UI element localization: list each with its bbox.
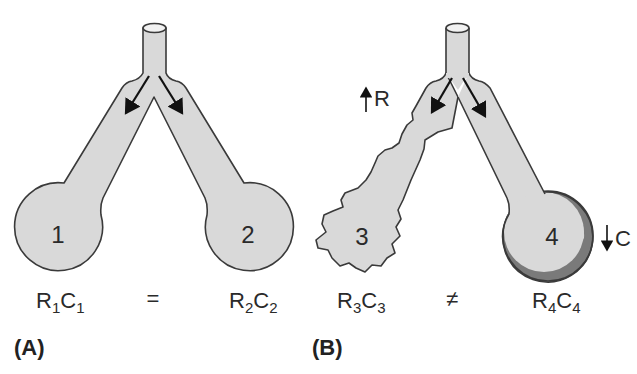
trachea-opening-a — [143, 24, 166, 33]
expr-r2c2: R2C2 — [229, 288, 277, 316]
relation-equal: = — [147, 286, 160, 311]
panel-label-a: (A) — [14, 335, 45, 360]
compliance-annotation-label: C — [615, 226, 631, 251]
panel-b: R C 3 4 R3C3 ≠ R4C4 (B) — [312, 24, 631, 361]
trachea-b-fill — [446, 28, 469, 78]
expr-r3c3: R3C3 — [337, 288, 385, 316]
resistance-annotation-label: R — [374, 86, 390, 111]
expr-r1c1: R1C1 — [36, 288, 84, 316]
panel-label-b: (B) — [312, 335, 343, 360]
trachea-opening-b — [446, 24, 469, 33]
expr-r4c4: R4C4 — [532, 288, 580, 316]
panel-a: 1 2 R1C1 = R2C2 (A) — [14, 24, 293, 361]
alveolus-4-lumen — [504, 192, 584, 272]
alveolus-3-number: 3 — [355, 223, 368, 250]
alveolus-1-number: 1 — [51, 221, 64, 248]
lung-units-diagram: 1 2 R1C1 = R2C2 (A) R C 3 4 R3 — [0, 0, 637, 374]
relation-not-equal: ≠ — [446, 286, 458, 311]
alveolus-2-number: 2 — [241, 221, 254, 248]
alveolus-4-number: 4 — [545, 223, 558, 250]
